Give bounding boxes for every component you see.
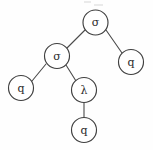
tree-node-lambda[interactable]: λ — [72, 78, 97, 103]
node-label-left-leaf: q — [17, 82, 24, 95]
node-label-root: σ — [92, 16, 100, 29]
tree-diagram: σσqqλq — [0, 0, 153, 150]
tree-edge-root-to-left — [67, 30, 85, 48]
scan-artifact-layer — [84, 1, 103, 6]
diagram-canvas: σσqqλq — [0, 0, 153, 150]
node-label-lambda: λ — [81, 84, 88, 97]
tree-node-bottom-leaf[interactable]: q — [72, 118, 97, 143]
tree-node-left-leaf[interactable]: q — [9, 76, 34, 101]
tree-edge-left-to-left-leaf — [32, 64, 46, 81]
top-smudge-right — [94, 4, 103, 6]
tree-node-root[interactable]: σ — [83, 10, 108, 35]
tree-edge-root-to-right-leaf — [106, 30, 122, 53]
node-label-bottom-leaf: q — [80, 124, 87, 137]
tree-node-right-leaf[interactable]: q — [119, 50, 144, 75]
tree-edge-left-to-lambda — [66, 65, 76, 81]
tree-node-left[interactable]: σ — [45, 44, 70, 69]
node-label-right-leaf: q — [127, 56, 134, 69]
tree-edge-layer — [32, 30, 122, 117]
top-smudge-left — [84, 1, 91, 3]
node-label-left: σ — [53, 50, 61, 63]
tree-node-layer: σσqqλq — [9, 10, 144, 143]
